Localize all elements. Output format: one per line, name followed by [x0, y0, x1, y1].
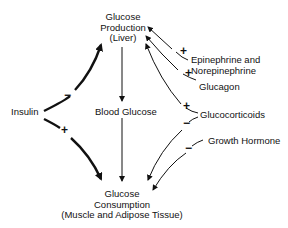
node-glucagon: Glucagon: [199, 82, 240, 93]
epinephrine-line2: Norepinephrine: [191, 66, 260, 77]
node-blood-glucose: Blood Glucose: [95, 107, 157, 118]
production-line3: (Liver): [95, 33, 151, 44]
sign-growth-hormone-consumption: −: [185, 142, 192, 154]
node-growth-hormone: Growth Hormone: [208, 136, 280, 147]
production-line1: Glucose: [95, 12, 151, 23]
sign-glucocorticoids-consumption: −: [183, 117, 190, 129]
sign-insulin-consumption: +: [61, 124, 68, 136]
node-epinephrine: Epinephrine and Norepinephrine: [191, 55, 260, 76]
node-glucose-consumption: Glucose Consumption (Muscle and Adipose …: [60, 189, 184, 221]
consumption-line1: Glucose: [60, 189, 184, 200]
arrow-insulin-to-consumption-b: [71, 138, 101, 179]
arrow-insulin-to-production-b: [75, 45, 101, 90]
node-glucose-production: Glucose Production (Liver): [95, 12, 151, 44]
consumption-line3: (Muscle and Adipose Tissue): [60, 210, 184, 221]
sign-insulin-production: −: [64, 89, 71, 101]
arrow-glucocorticoids-to-production: [146, 44, 181, 104]
node-insulin: Insulin: [11, 107, 38, 118]
sign-glucocorticoids-production: +: [183, 100, 190, 112]
epinephrine-line1: Epinephrine and: [191, 55, 260, 66]
sign-epinephrine-production: +: [180, 45, 187, 57]
sign-glucagon-production: +: [185, 67, 192, 79]
arrow-growth-hormone-to-consumption: [153, 153, 186, 190]
node-glucocorticoids: Glucocorticoids: [200, 110, 265, 121]
arrow-epinephrine-to-production: [148, 27, 172, 49]
arrow-insulin-to-consumption-a: [44, 119, 60, 128]
